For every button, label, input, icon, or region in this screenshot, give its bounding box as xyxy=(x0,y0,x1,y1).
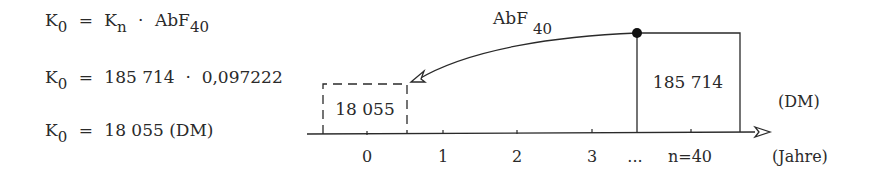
present-value-label: 18 055 xyxy=(335,99,394,119)
discount-arc xyxy=(417,33,637,80)
axis-arrowhead-icon xyxy=(755,127,770,137)
future-value-dot xyxy=(632,28,642,38)
unit-label-dm: (DM) xyxy=(778,92,820,111)
tick-label-3: 3 xyxy=(587,147,597,166)
arc-label-subscript: 40 xyxy=(533,20,552,38)
tick-label-n40: n=40 xyxy=(668,147,712,166)
arc-label: AbF xyxy=(492,8,528,28)
tick-label-2: 2 xyxy=(512,147,522,166)
tick-label-ellipsis: ... xyxy=(627,147,642,166)
time-axis xyxy=(307,132,755,134)
future-value-label: 185 714 xyxy=(653,72,723,92)
tick-label-0: 0 xyxy=(362,147,372,166)
axis-label-years: (Jahre) xyxy=(772,147,828,166)
timeline-diagram: 0 1 2 3 ... n=40 (Jahre) (DM) 18 055 185… xyxy=(0,0,869,178)
tick-label-1: 1 xyxy=(438,147,448,166)
